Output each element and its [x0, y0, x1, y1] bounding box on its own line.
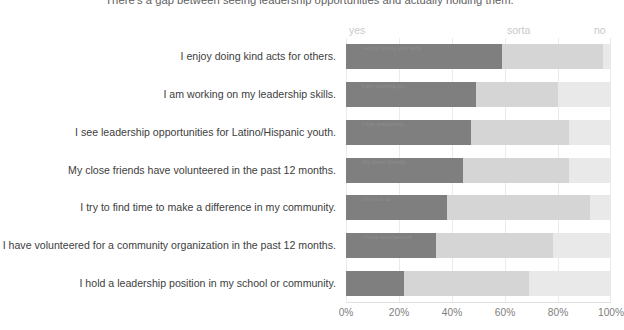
- x-tick-label: 40%: [442, 306, 462, 320]
- x-axis-line: [346, 302, 611, 303]
- x-tick-label: 80%: [548, 306, 568, 320]
- category-axis-labels: I enjoy doing kind acts for others.I am …: [0, 38, 340, 302]
- legend-item-sorta: sorta: [507, 24, 530, 37]
- x-tick-label: 100%: [598, 306, 624, 320]
- bar-segment-sorta[interactable]: [471, 120, 569, 145]
- chart-title: There's a gap between seeing leadership …: [0, 0, 619, 7]
- category-label: I am working on my leadership skills.: [163, 82, 336, 107]
- bar-overlay-label: I try to find: [362, 195, 442, 204]
- bar-overlay-label: I enjoy doing kind acts: [362, 44, 497, 53]
- chart-legend: yes sorta no: [346, 24, 611, 37]
- bar-segment-sorta[interactable]: [447, 195, 590, 220]
- category-label: I have volunteered for a community organ…: [3, 233, 336, 258]
- bar-rows: I enjoy doing kind actsI am working onI …: [346, 38, 611, 302]
- bar-segment-no[interactable]: [558, 82, 611, 107]
- x-tick-label: 20%: [389, 306, 409, 320]
- category-label: My close friends have volunteered in the…: [68, 158, 336, 183]
- bar-segment-no[interactable]: [569, 158, 611, 183]
- table-row[interactable]: My close friends: [346, 158, 611, 183]
- bar-segment-sorta[interactable]: [436, 233, 553, 258]
- bar-overlay-label: I am working on: [362, 82, 471, 91]
- bar-overlay-label: I see leadership: [362, 120, 465, 129]
- category-label: I hold a leadership position in my schoo…: [79, 271, 336, 296]
- table-row[interactable]: I enjoy doing kind acts: [346, 44, 611, 69]
- x-axis-tick-labels: 0%20%40%60%80%100%: [346, 306, 611, 320]
- bar-overlay-label: I have volunteered: [362, 233, 431, 242]
- bar-segment-no[interactable]: [590, 195, 611, 220]
- bar-segment-yes[interactable]: [346, 271, 404, 296]
- x-tick-label: 60%: [495, 306, 515, 320]
- bar-overlay-label: My close friends: [362, 158, 457, 167]
- plot-area: I enjoy doing kind actsI am working onI …: [346, 38, 611, 302]
- bar-segment-no[interactable]: [603, 44, 611, 69]
- table-row[interactable]: I have volunteered: [346, 233, 611, 258]
- table-row[interactable]: [346, 271, 611, 296]
- category-label: I see leadership opportunities for Latin…: [75, 120, 336, 145]
- bar-segment-no[interactable]: [569, 120, 611, 145]
- table-row[interactable]: I see leadership: [346, 120, 611, 145]
- table-row[interactable]: I am working on: [346, 82, 611, 107]
- x-tick-label: 0%: [339, 306, 354, 320]
- bar-segment-sorta[interactable]: [404, 271, 529, 296]
- category-label: I enjoy doing kind acts for others.: [181, 44, 336, 69]
- category-label: I try to find time to make a difference …: [80, 195, 336, 220]
- bar-segment-sorta[interactable]: [502, 44, 603, 69]
- bar-segment-sorta[interactable]: [463, 158, 569, 183]
- bar-segment-no[interactable]: [529, 271, 611, 296]
- legend-item-no: no: [594, 24, 606, 37]
- legend-item-yes: yes: [349, 24, 365, 37]
- bar-segment-sorta[interactable]: [476, 82, 558, 107]
- bar-segment-no[interactable]: [553, 233, 611, 258]
- table-row[interactable]: I try to find: [346, 195, 611, 220]
